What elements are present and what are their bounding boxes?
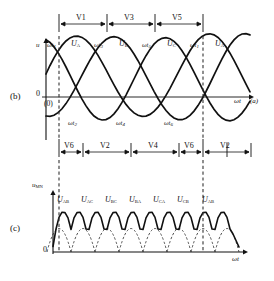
- panel-b-bottom-band-arrows: [61, 150, 249, 154]
- waveform-artwork: [0, 0, 274, 281]
- line-voltage-label-uac: UAC: [81, 196, 93, 204]
- peak-label-ua-2: UA: [215, 40, 224, 48]
- panel-b-top-band-arrows: [61, 22, 201, 26]
- panel-c-x-axis-label: ωt: [232, 256, 239, 263]
- crossing-label-wt5: ωt5: [142, 42, 151, 49]
- panel-c-y-axis-label: uMN: [32, 182, 43, 189]
- panel-c-y-arrow: [50, 190, 55, 195]
- line-voltage-label-uab-1: UAB: [57, 196, 69, 204]
- switch-band-v4: V4: [148, 142, 158, 150]
- panel-c-tag: (c): [10, 224, 20, 233]
- panel-b-right-note: (a): [250, 98, 258, 105]
- panel-b-group: [42, 14, 254, 157]
- switch-band-v1: V1: [76, 14, 86, 22]
- line-voltage-label-uab-2: UAB: [202, 196, 214, 204]
- panel-c-dashed-markers: [59, 160, 203, 252]
- peak-label-ub: UB: [119, 40, 128, 48]
- panel-c-origin-label: 0: [43, 246, 47, 254]
- panel-c-dashed-arcs: [47, 229, 239, 253]
- line-voltage-label-ubc: UBC: [105, 196, 117, 204]
- panel-c-x-arrow: [243, 249, 248, 254]
- switch-band-v6-a: V6: [64, 142, 74, 150]
- panel-b-origin-label: 0: [36, 90, 40, 98]
- peak-label-uc: UC: [167, 40, 176, 48]
- switch-band-v2-a: V2: [100, 142, 110, 150]
- peak-label-ua-1: UA: [71, 40, 80, 48]
- line-voltage-label-uba: UBA: [129, 196, 141, 204]
- panel-b-origin-paren: (0): [44, 100, 53, 108]
- figure-root: (b) (c) V1 V3 V5 V6 V2 V4 V6 V2 u 0 (0) …: [0, 0, 274, 281]
- crossing-label-wt2: ωt2: [68, 120, 77, 127]
- panel-b-y-axis-label: u: [36, 42, 40, 49]
- panel-c-group: [47, 160, 248, 255]
- crossing-label-wt6: ωt6: [164, 120, 173, 127]
- switch-band-v3: V3: [124, 14, 134, 22]
- switch-band-v6-b: V6: [184, 142, 194, 150]
- line-voltage-label-uca: UCA: [153, 196, 165, 204]
- panel-b-x-axis-label: ωt: [234, 98, 241, 105]
- line-voltage-label-ucb: UCB: [177, 196, 189, 204]
- crossing-label-wt3: ωt3: [94, 42, 103, 49]
- switch-band-v5: V5: [172, 14, 182, 22]
- panel-b-dashed-markers: [59, 36, 203, 140]
- crossing-label-wt1-top-2: ωt1: [190, 42, 199, 49]
- crossing-label-wt4: ωt4: [116, 120, 125, 127]
- switch-band-v2-b: V2: [220, 142, 230, 150]
- crossing-label-wt1-top: ωt1: [47, 42, 56, 49]
- panel-b-tag: (b): [10, 92, 21, 101]
